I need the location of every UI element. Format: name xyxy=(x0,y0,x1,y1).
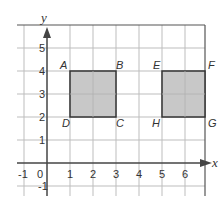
point-label-a: A xyxy=(59,59,67,71)
x-tick: 4 xyxy=(136,168,142,180)
x-axis-label: x xyxy=(211,155,218,170)
point-label-h: H xyxy=(152,117,160,129)
y-axis-arrow-icon xyxy=(43,27,51,38)
x-tick: -1 xyxy=(18,168,28,180)
x-axis-arrow-icon xyxy=(200,159,212,167)
x-tick: 2 xyxy=(90,168,96,180)
point-label-g: G xyxy=(208,117,217,129)
y-tick: 3 xyxy=(39,88,45,100)
y-tick: 5 xyxy=(39,42,45,54)
x-tick: 1 xyxy=(67,168,73,180)
y-tick: 2 xyxy=(39,111,45,123)
x-tick: 0 xyxy=(37,168,43,180)
coordinate-grid: x y -1 0 1 2 3 4 5 6 1 2 3 4 5 -1 A B C … xyxy=(0,0,224,212)
point-label-b: B xyxy=(116,59,123,71)
point-label-d: D xyxy=(62,117,70,129)
y-tick-negative: -1 xyxy=(38,180,48,192)
x-tick: 6 xyxy=(182,168,188,180)
y-axis-label: y xyxy=(39,10,47,25)
y-tick: 4 xyxy=(39,65,45,77)
x-tick: 3 xyxy=(113,168,119,180)
point-label-e: E xyxy=(153,59,161,71)
point-label-c: C xyxy=(116,117,124,129)
x-tick: 5 xyxy=(159,168,165,180)
point-label-f: F xyxy=(208,59,216,71)
y-tick: 1 xyxy=(39,134,45,146)
